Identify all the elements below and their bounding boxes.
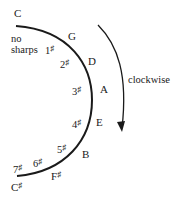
diagram-canvas [0,0,183,199]
clockwise-arrow-shaft [98,25,124,128]
no-sharps-label-line2: sharps [11,44,38,55]
key-label-c: C [14,8,21,19]
sharp-count-7: 7♯ [13,162,22,175]
sharp-count-3: 3♯ [72,84,81,97]
sharp-count-6: 6♯ [33,156,42,169]
key-label-g: G [68,31,76,42]
no-sharps-label-line1: no [11,33,22,44]
clockwise-arrow-head [117,121,125,132]
sharp-count-4: 4♯ [72,117,81,130]
sharp-count-5: 5♯ [57,142,66,155]
sharp-count-2: 2♯ [60,57,69,70]
sharp-count-1: 1♯ [45,43,54,56]
key-label-a: A [100,84,108,95]
key-label-e: E [96,117,103,128]
key-label-d: D [88,56,96,67]
key-label-c-sharp: C♯ [11,180,22,193]
key-label-f-sharp: F♯ [51,169,61,182]
clockwise-label: clockwise [128,74,170,85]
key-label-b: B [82,149,89,160]
